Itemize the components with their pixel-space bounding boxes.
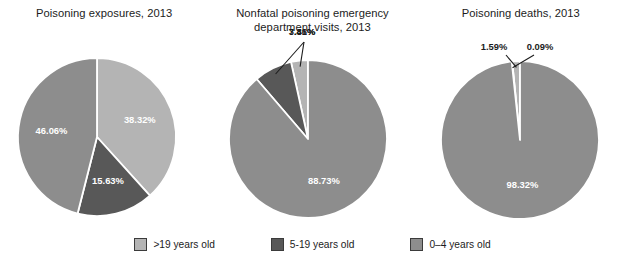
legend-label-0-4: 0–4 years old bbox=[429, 239, 490, 250]
legend-item-5-19: 5-19 years old bbox=[271, 238, 355, 251]
slice-label: 7.81% bbox=[289, 26, 316, 37]
chart-panel-exposures: Poisoning exposures, 2013 38.32%15.63%46… bbox=[0, 0, 208, 228]
slice-label: 0.09% bbox=[526, 41, 553, 52]
legend-item-gt19: >19 years old bbox=[134, 238, 214, 251]
pie-svg: 38.32%15.63%46.06% bbox=[0, 0, 208, 228]
slice-label: 46.06% bbox=[36, 125, 68, 136]
pie-exposures: 38.32%15.63%46.06% bbox=[0, 0, 208, 228]
pie-ed-visits: 3.46%7.81%88.73% bbox=[208, 0, 416, 228]
chart-panels: Poisoning exposures, 2013 38.32%15.63%46… bbox=[0, 0, 625, 228]
legend-label-gt19: >19 years old bbox=[153, 239, 214, 250]
slice-label: 88.73% bbox=[308, 175, 340, 186]
pie-svg: 3.46%7.81%88.73% bbox=[208, 0, 416, 228]
pie-slice bbox=[441, 61, 599, 219]
legend-label-5-19: 5-19 years old bbox=[290, 239, 355, 250]
pie-svg: 1.59%0.09%98.32% bbox=[417, 0, 625, 228]
slice-label: 98.32% bbox=[506, 179, 538, 190]
slice-label: 15.63% bbox=[92, 175, 124, 186]
slice-label: 38.32% bbox=[124, 114, 156, 125]
legend: >19 years old 5-19 years old 0–4 years o… bbox=[0, 232, 625, 256]
poisoning-pie-chart-figure: Poisoning exposures, 2013 38.32%15.63%46… bbox=[0, 0, 625, 265]
pie-slice bbox=[229, 60, 387, 218]
pie-deaths: 1.59%0.09%98.32% bbox=[417, 0, 625, 228]
chart-panel-ed-visits: Nonfatal poisoning emergency department … bbox=[208, 0, 416, 228]
legend-swatch-5-19 bbox=[271, 238, 284, 251]
slice-label: 1.59% bbox=[480, 41, 507, 52]
legend-swatch-0-4 bbox=[410, 238, 423, 251]
legend-item-0-4: 0–4 years old bbox=[410, 238, 490, 251]
chart-panel-deaths: Poisoning deaths, 2013 1.59%0.09%98.32% bbox=[417, 0, 625, 228]
legend-swatch-gt19 bbox=[134, 238, 147, 251]
